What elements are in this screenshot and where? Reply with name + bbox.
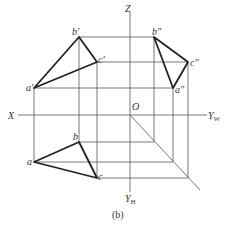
point-b-label: b — [73, 131, 78, 142]
point-c-prime-label: c' — [98, 54, 105, 65]
top-view-triangle — [34, 142, 97, 178]
point-a-label: a — [27, 156, 32, 167]
front-view-triangle — [34, 37, 97, 88]
x-axis-label: X — [7, 110, 15, 121]
point-b-double-prime-label: b" — [152, 26, 162, 37]
z-axis-label: Z — [125, 3, 131, 14]
projection-diagram: X Z O YW YH a' b' c' a" b" c" a b c (b) — [0, 0, 227, 228]
figure-caption: (b) — [112, 209, 124, 221]
point-c-double-prime-label: c" — [190, 57, 199, 68]
point-b-prime-label: b' — [72, 26, 80, 37]
yh-axis-label: YH — [125, 193, 136, 206]
point-a-prime-label: a' — [26, 82, 34, 93]
yw-axis-label: YW — [208, 110, 221, 123]
diagonal-45-line — [130, 115, 200, 190]
side-view-triangle — [154, 37, 188, 88]
point-c-label: c — [98, 171, 103, 182]
point-a-double-prime-label: a" — [175, 84, 185, 95]
origin-label: O — [132, 101, 139, 112]
